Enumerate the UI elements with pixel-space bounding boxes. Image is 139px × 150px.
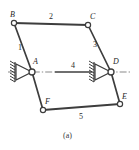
link-bar-2: [14, 23, 88, 25]
joint-label-D: D: [113, 58, 119, 66]
link-label-5: 5: [79, 113, 83, 121]
joint-label-E: E: [122, 93, 127, 101]
joint-F: [40, 107, 45, 112]
joint-label-B: B: [10, 11, 15, 19]
link-bar-D-E: [111, 72, 120, 104]
linkage-diagram-svg: [0, 0, 139, 150]
joint-A: [29, 69, 35, 75]
joint-label-F: F: [45, 98, 50, 106]
figure-caption: (a): [63, 132, 72, 140]
link-bar-5: [43, 104, 120, 110]
link-label-2: 2: [49, 13, 53, 21]
link-label-4: 4: [71, 62, 75, 70]
link-label-1: 1: [18, 44, 22, 52]
joint-label-C: C: [90, 13, 95, 21]
joint-D: [108, 69, 114, 75]
joint-label-A: A: [33, 58, 38, 66]
linkage-figure: B C A D F E 1 2 3 4 5 (a): [0, 0, 139, 150]
joint-B: [11, 20, 16, 25]
joint-E: [117, 101, 122, 106]
link-label-3: 3: [93, 41, 97, 49]
joint-C: [85, 22, 90, 27]
link-bar-A-F: [32, 72, 43, 110]
